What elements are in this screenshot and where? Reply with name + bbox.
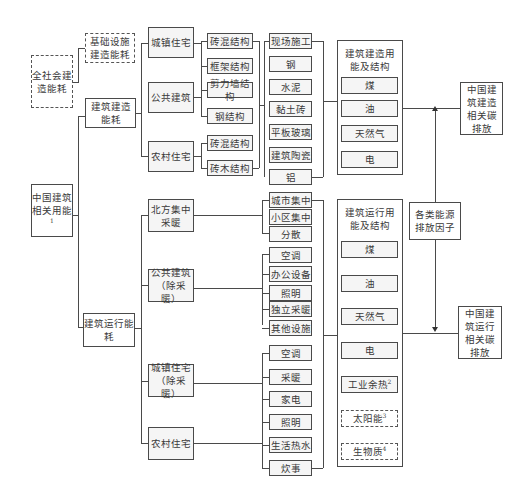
construction-type-node: 城镇住宅 <box>148 27 194 58</box>
material-node: 黏土砖 <box>269 101 312 117</box>
structure-node: 砖木结构 <box>207 160 253 176</box>
residential-use-node: 生活热水 <box>269 437 312 453</box>
material-node: 平板玻璃 <box>269 124 312 140</box>
structure-node: 砖混结构 <box>207 135 253 151</box>
society-construction-energy-node: 全社会建造能耗 <box>31 55 73 108</box>
energy-item-renewable: 生物质4 <box>341 443 398 460</box>
emission-factors-node: 各类能源排放因子 <box>409 202 461 240</box>
heating-node: 分散 <box>269 226 312 242</box>
residential-use-node: 照明 <box>269 414 312 430</box>
node-label: 基础设施建造能耗 <box>86 35 134 61</box>
operation-type-node: 农村住宅 <box>148 427 194 460</box>
structure-node: 砖混结构 <box>207 33 253 49</box>
energy-item: 天然气 <box>341 308 398 325</box>
energy-item: 煤 <box>341 241 398 258</box>
heating-node: 城市集中 <box>269 192 312 208</box>
energy-item: 电 <box>341 151 398 168</box>
node-label: 中国建筑相关用能1 <box>32 191 72 230</box>
energy-item-renewable: 太阳能3 <box>341 410 398 427</box>
operation-type-node: 公共建筑（除采暖） <box>148 269 194 302</box>
heating-node: 小区集中 <box>269 209 312 225</box>
residential-use-node: 采暖 <box>269 369 312 385</box>
energy-item: 工业余热2 <box>341 376 398 393</box>
operation-type-node: 北方集中采暖 <box>148 199 194 232</box>
structure-node: 钢结构 <box>207 108 253 124</box>
operation-carbon-emission-node: 中国建筑运行相关碳排放 <box>458 306 502 359</box>
construction-type-node: 公共建筑 <box>148 82 194 113</box>
building-construction-energy-node: 建筑建造能耗 <box>85 98 136 128</box>
residential-use-node: 家电 <box>269 391 312 407</box>
material-node: 铝 <box>269 169 312 185</box>
node-label: 全社会建造能耗 <box>32 69 72 95</box>
structure-node: 框架结构 <box>207 58 253 74</box>
china-building-energy-root-node: 中国建筑相关用能1 <box>31 184 73 237</box>
building-operation-energy-node: 建筑运行能耗 <box>83 313 135 347</box>
infrastructure-energy-node: 基础设施建造能耗 <box>85 33 135 63</box>
panel-title: 建筑建造用能及结构 <box>345 47 395 73</box>
node-label: 建筑运行能耗 <box>84 317 134 343</box>
energy-item: 油 <box>341 275 398 292</box>
residential-use-node: 炊事 <box>269 460 312 476</box>
public-use-node: 空调 <box>269 247 312 263</box>
construction-carbon-emission-node: 中国建筑建造相关碳排放 <box>460 82 503 135</box>
public-use-node: 其他设施 <box>269 320 312 336</box>
operation-type-node: 城镇住宅（除采暖） <box>148 364 194 397</box>
public-use-node: 独立采暖 <box>269 301 312 317</box>
energy-item: 煤 <box>341 77 398 94</box>
public-use-node: 照明 <box>269 285 312 301</box>
structure-node: 剪力墙结构 <box>207 82 253 98</box>
material-node: 现场施工 <box>269 33 312 49</box>
energy-item: 天然气 <box>341 125 398 142</box>
residential-use-node: 空调 <box>269 345 312 361</box>
panel-title: 建筑运行用能及结构 <box>345 206 395 232</box>
energy-item: 油 <box>341 100 398 117</box>
material-node: 建筑陶瓷 <box>269 147 312 163</box>
material-node: 水泥 <box>269 79 312 95</box>
node-label: 建筑建造能耗 <box>86 100 135 126</box>
construction-type-node: 农村住宅 <box>148 141 194 172</box>
energy-item: 电 <box>341 342 398 359</box>
public-use-node: 办公设备 <box>269 266 312 282</box>
material-node: 钢 <box>269 56 312 72</box>
